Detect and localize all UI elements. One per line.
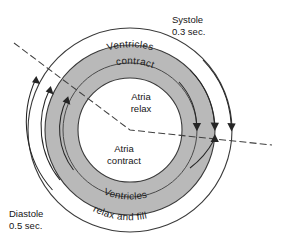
systole-time: 0.3 sec. xyxy=(172,26,205,37)
label-diastole: Diastole 0.5 sec. xyxy=(9,208,43,231)
atria-relax-line1: Atria xyxy=(131,91,151,102)
label-systole: Systole 0.3 sec. xyxy=(172,14,205,37)
arrowhead-outer-left xyxy=(32,76,40,84)
atria-relax-line2: relax xyxy=(131,103,152,114)
systole-name: Systole xyxy=(172,14,203,25)
cardiac-cycle-diagram: Ventricles contract Ventricles relax and… xyxy=(0,0,281,247)
atria-contract-line1: Atria xyxy=(114,143,134,154)
arrowhead-outer-right xyxy=(227,123,235,132)
diastole-name: Diastole xyxy=(9,208,43,219)
diastole-time: 0.5 sec. xyxy=(9,220,42,231)
atria-contract-line2: contract xyxy=(107,155,141,166)
label-atria-relax: Atria relax xyxy=(131,91,152,114)
cardiac-cycle-figure: Ventricles contract Ventricles relax and… xyxy=(0,0,281,247)
arrowhead-band-outer-left xyxy=(46,86,54,94)
